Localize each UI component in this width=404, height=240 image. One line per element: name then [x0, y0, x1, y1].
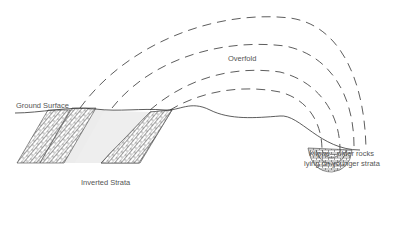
klippe-label-line1: Klippe—older rocks: [309, 149, 374, 158]
ground-surface-label: Ground Surface: [16, 101, 69, 110]
inverted-strata-label: Inverted Strata: [81, 178, 130, 187]
klippe-label-line2: lying on younger strata: [304, 159, 380, 168]
overfold-label: Overfold: [228, 54, 256, 63]
